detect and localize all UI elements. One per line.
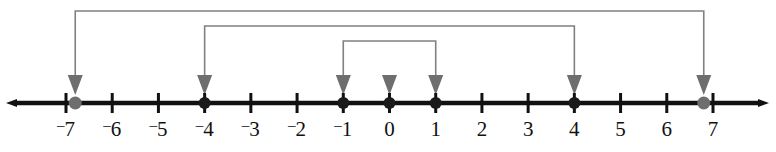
number-line-point [337,97,349,109]
number-line-point [697,97,710,110]
tick-number: 5 [157,117,168,141]
tick-label: 6 [662,117,673,141]
tick-label: 3 [523,117,534,141]
tick-number: 1 [342,117,353,141]
tick-label: 2 [477,117,488,141]
tick-number: 2 [296,117,307,141]
tick-number: 7 [65,117,76,141]
tick-number: 3 [249,117,260,141]
number-line-point [199,97,211,109]
number-line-point [384,97,396,109]
tick-label: 0 [384,117,395,141]
tick-number: 4 [203,117,214,141]
number-line-point [568,97,580,109]
tick-label: 5 [615,117,626,141]
number-line-figure: –7–6–5–4–3–2–101234567 [0,0,776,152]
tick-label: 4 [569,117,580,141]
tick-label: 1 [430,117,441,141]
tick-number: 6 [111,117,122,141]
number-line-point [69,97,82,110]
number-line-point [430,97,442,109]
tick-label: 7 [708,117,719,141]
